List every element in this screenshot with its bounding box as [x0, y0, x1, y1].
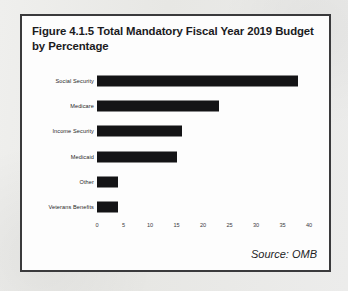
category-label: Other: [0, 179, 94, 185]
figure-title: Figure 4.1.5 Total Mandatory Fiscal Year…: [32, 24, 317, 53]
bar: [97, 101, 219, 112]
category-label: Medicaid: [0, 154, 94, 160]
bar: [97, 126, 182, 137]
category-label: Income Security: [0, 128, 94, 134]
x-tick-label: 0: [95, 222, 98, 228]
x-tick-label: 30: [253, 222, 259, 228]
scanned-page: Figure 4.1.5 Total Mandatory Fiscal Year…: [0, 0, 348, 291]
x-tick-label: 15: [173, 222, 179, 228]
x-tick-label: 20: [200, 222, 206, 228]
bar: [97, 202, 118, 213]
x-tick-label: 10: [147, 222, 153, 228]
category-label: Medicare: [0, 103, 94, 109]
figure-frame: Figure 4.1.5 Total Mandatory Fiscal Year…: [20, 14, 331, 272]
x-tick-label: 25: [226, 222, 232, 228]
bar-chart: Social SecurityMedicareIncome SecurityMe…: [22, 70, 329, 250]
bar: [97, 76, 298, 87]
source-note: Source: OMB: [251, 248, 317, 260]
category-label: Social Security: [0, 78, 94, 84]
x-tick-label: 40: [306, 222, 312, 228]
bar: [97, 176, 118, 187]
category-label: Veterans Benefits: [0, 204, 94, 210]
x-tick-label: 5: [122, 222, 125, 228]
x-tick-label: 35: [279, 222, 285, 228]
bar: [97, 151, 177, 162]
